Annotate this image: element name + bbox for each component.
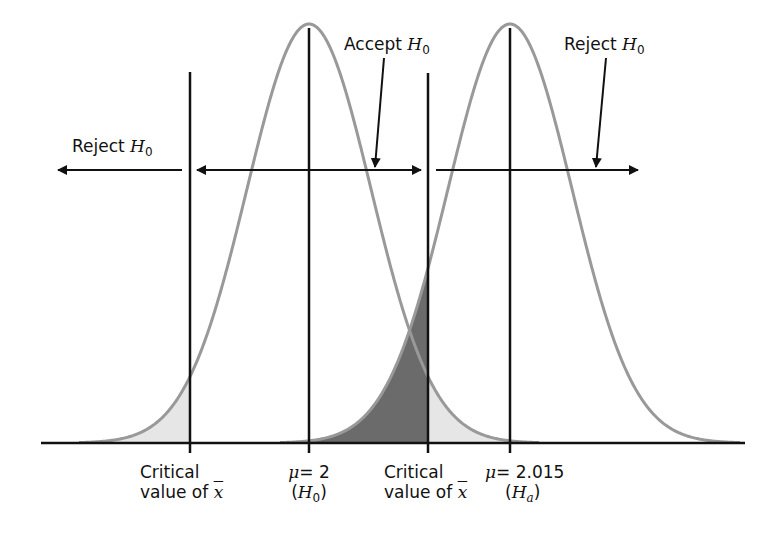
mu-null-label: μ= 2 (H0) [269,462,349,508]
critical-value-right-label: Critical value of x [384,462,494,502]
reject-h0-right-label: Reject H0 [564,34,645,60]
reject-h0-left-label: Reject H0 [72,136,153,162]
accept-h0-label: Accept H0 [344,34,430,60]
alpha-region-right [428,377,540,443]
critical-value-left-label: Critical value of x [140,462,250,502]
alpha-region-left [80,377,190,443]
accept-pointer [375,58,384,167]
hypothesis-test-diagram [0,0,778,534]
beta-region [280,268,428,443]
mu-alt-label: μ= 2.015 (Ha) [485,462,595,508]
reject-pointer [596,58,606,167]
